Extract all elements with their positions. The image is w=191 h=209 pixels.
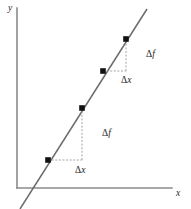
data-point-1 — [45, 157, 51, 163]
upper-delta-f-variable: f — [152, 49, 156, 59]
x-axis-label: x — [175, 188, 181, 198]
slope-diagram-svg: y x Δx Δf Δx Δf — [0, 0, 191, 209]
y-axis-label: y — [7, 3, 13, 13]
upper-delta-x-variable: x — [126, 75, 132, 85]
lower-delta-x-label: Δx — [59, 165, 97, 175]
data-point-3 — [100, 68, 106, 74]
lower-delta-x-variable: x — [80, 165, 86, 175]
upper-delta-x-label: Δx — [105, 75, 143, 85]
upper-delta-f-label: Δf — [130, 49, 167, 59]
data-point-4 — [123, 36, 129, 42]
lower-delta-f-label: Δf — [86, 128, 123, 138]
lower-delta-f-variable: f — [108, 128, 112, 138]
data-point-2 — [79, 105, 85, 111]
figure-container: y x Δx Δf Δx Δf — [0, 0, 191, 209]
